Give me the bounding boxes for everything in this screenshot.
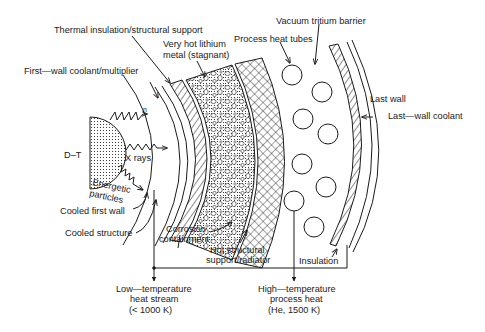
label-low-temp-3: (< 1000 K) — [129, 305, 172, 315]
label-process-heat-tubes: Process heat tubes — [234, 34, 313, 44]
leader-vacuum — [315, 24, 319, 64]
label-lithium-2: metal (stagnant) — [163, 50, 229, 60]
label-high-temp-3: (He, 1500 K) — [268, 305, 320, 315]
label-x-rays: X rays — [125, 153, 151, 163]
label-cooled-structure: Cooled structure — [65, 228, 132, 238]
label-vacuum-tritium: Vacuum tritium barrier — [276, 16, 366, 26]
label-neutron: n — [143, 106, 147, 113]
insulation-band — [329, 44, 362, 246]
process-heat-tubes — [282, 65, 338, 237]
label-low-temp-1: Low—temperature — [116, 284, 192, 294]
label-last-wall-coolant: Last—wall coolant — [388, 111, 463, 121]
label-lithium-1: Very hot lithium — [163, 39, 226, 49]
label-corrosion-1: Corrosion — [166, 224, 206, 234]
label-corrosion-2: containment — [159, 234, 209, 244]
label-first-wall-coolant: First—wall coolant/multiplier — [24, 66, 138, 76]
label-hot-structural-2: support/radiator — [206, 255, 270, 265]
label-last-wall: Last wall — [370, 94, 406, 104]
fusion-blanket-diagram: Thermal insulation/structural support Ve… — [0, 0, 485, 332]
neutron-zigzag — [110, 112, 147, 120]
label-high-temp-2: process heat — [270, 294, 323, 304]
xray-zigzag — [126, 144, 167, 150]
label-hot-structural-1: Hot structural — [210, 245, 265, 255]
label-dt: D–T — [64, 150, 82, 160]
label-cooled-first-wall: Cooled first wall — [60, 206, 125, 216]
label-high-temp-1: High—temperature — [258, 284, 336, 294]
label-low-temp-2: heat stream — [130, 294, 179, 304]
label-thermal-insulation: Thermal insulation/structural support — [54, 25, 203, 35]
label-insulation: Insulation — [299, 256, 338, 266]
leader-process-tubes — [280, 42, 290, 63]
